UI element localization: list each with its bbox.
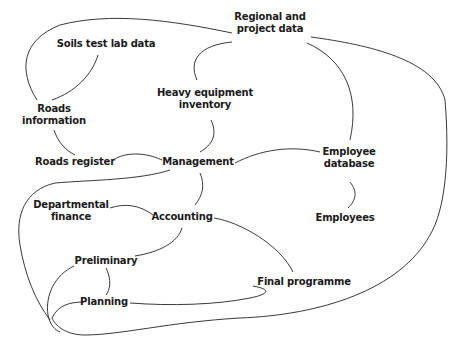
node-label-line2: information bbox=[22, 115, 86, 127]
node-label-line1: Management bbox=[162, 156, 234, 168]
diagram-edges bbox=[0, 0, 463, 351]
node-heavy-equipment-inventory: Heavy equipment inventory bbox=[157, 87, 253, 111]
node-label-line2: project data bbox=[234, 23, 305, 35]
edge-accounting-finalprog bbox=[214, 218, 293, 272]
node-label-line1: Roads bbox=[22, 103, 86, 115]
edge-roadsinfo-roadsreg bbox=[54, 130, 75, 155]
edge-planning-finalprog bbox=[130, 286, 266, 305]
node-label-line1: Planning bbox=[80, 296, 128, 308]
node-label-line1: Accounting bbox=[151, 211, 212, 223]
edge-heavy-management bbox=[200, 120, 214, 152]
edge-preliminary-planning bbox=[106, 268, 110, 295]
node-planning: Planning bbox=[80, 296, 128, 308]
edge-regional-empdb bbox=[307, 43, 353, 140]
node-label-line1: Final programme bbox=[257, 276, 350, 288]
node-management: Management bbox=[162, 156, 234, 168]
edge-roadsreg-management bbox=[113, 154, 162, 160]
edge-heavy-regional bbox=[194, 42, 232, 80]
node-label-line1: Regional and bbox=[234, 11, 305, 23]
node-label-line1: Roads register bbox=[35, 156, 115, 168]
node-regional-and-project-data: Regional and project data bbox=[234, 11, 305, 35]
node-label-line1: Heavy equipment bbox=[157, 87, 253, 99]
node-employees: Employees bbox=[316, 212, 375, 224]
node-label-line1: Preliminary bbox=[75, 255, 138, 267]
node-soils-test-lab-data: Soils test lab data bbox=[57, 38, 156, 50]
node-label-line2: database bbox=[322, 158, 375, 170]
node-employee-database: Employee database bbox=[322, 146, 375, 170]
node-final-programme: Final programme bbox=[257, 276, 350, 288]
node-departmental-finance: Departmental finance bbox=[33, 199, 109, 223]
edge-accounting-preliminary bbox=[135, 228, 182, 256]
edge-preliminary-planning-loop bbox=[47, 266, 74, 332]
node-label-line1: Soils test lab data bbox=[57, 38, 156, 50]
node-label-line2: finance bbox=[33, 211, 109, 223]
edge-regional-planning-loop bbox=[52, 37, 447, 335]
node-accounting: Accounting bbox=[151, 211, 212, 223]
node-roads-register: Roads register bbox=[35, 156, 115, 168]
edge-management-accounting bbox=[195, 173, 203, 205]
node-label-line1: Employees bbox=[316, 212, 375, 224]
edge-soils-roadsinfo bbox=[52, 55, 98, 100]
node-label-line1: Employee bbox=[322, 146, 375, 158]
node-preliminary: Preliminary bbox=[75, 255, 138, 267]
node-label-line1: Departmental bbox=[33, 199, 109, 211]
edge-empdb-employees bbox=[348, 182, 355, 208]
node-roads-information: Roads information bbox=[22, 103, 86, 127]
node-label-line2: inventory bbox=[157, 99, 253, 111]
edge-management-empdb bbox=[235, 149, 320, 163]
edge-deptfin-accounting bbox=[110, 205, 153, 215]
